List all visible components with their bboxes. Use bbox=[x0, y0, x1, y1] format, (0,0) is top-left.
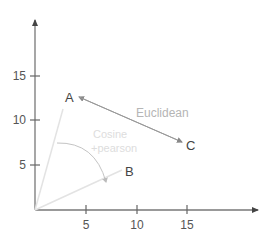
vector-b bbox=[35, 170, 122, 210]
distance-metrics-diagram: 5 10 15 5 10 15 A B C Euclidean Cosine +… bbox=[0, 0, 276, 247]
x-tick-label-10: 10 bbox=[130, 218, 144, 232]
x-tick-label-5: 5 bbox=[83, 218, 90, 232]
y-axis: 5 10 15 bbox=[13, 20, 40, 210]
y-tick-label-10: 10 bbox=[13, 113, 27, 127]
point-label-b: B bbox=[125, 164, 134, 179]
x-tick-label-15: 15 bbox=[180, 218, 194, 232]
x-axis: 5 10 15 bbox=[35, 205, 258, 232]
cosine-label: Cosine bbox=[93, 128, 127, 140]
euclidean-label: Euclidean bbox=[136, 106, 189, 120]
point-label-c: C bbox=[186, 138, 195, 153]
pearson-label: +pearson bbox=[91, 142, 137, 154]
vector-a bbox=[35, 109, 63, 210]
y-tick-label-5: 5 bbox=[19, 158, 26, 172]
y-tick-label-15: 15 bbox=[13, 69, 27, 83]
point-label-a: A bbox=[65, 90, 74, 105]
